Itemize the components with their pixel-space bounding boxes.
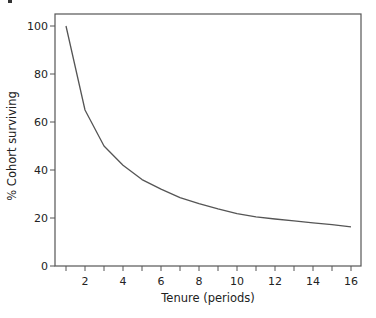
y-tick-label: 100 <box>27 20 48 33</box>
y-axis-label: % Cohort surviving <box>5 91 19 200</box>
x-axis-label: Tenure (periods) <box>160 291 255 305</box>
x-tick-label: 14 <box>306 275 320 288</box>
y-tick-label: 0 <box>41 260 48 273</box>
survival-line-chart: 246810121416 020406080100 Tenure (period… <box>0 0 376 318</box>
x-tick-label: 10 <box>230 275 244 288</box>
y-tick-label: 80 <box>34 68 48 81</box>
series-line <box>66 26 351 227</box>
x-tick-label: 2 <box>82 275 89 288</box>
y-axis-ticks: 020406080100 <box>27 20 55 273</box>
x-tick-label: 12 <box>268 275 282 288</box>
x-axis-ticks: 246810121416 <box>66 266 358 288</box>
x-tick-label: 16 <box>344 275 358 288</box>
y-tick-label: 20 <box>34 212 48 225</box>
x-tick-label: 6 <box>158 275 165 288</box>
data-series <box>66 26 351 227</box>
y-tick-label: 60 <box>34 116 48 129</box>
x-tick-label: 4 <box>120 275 127 288</box>
x-tick-label: 8 <box>196 275 203 288</box>
y-tick-label: 40 <box>34 164 48 177</box>
